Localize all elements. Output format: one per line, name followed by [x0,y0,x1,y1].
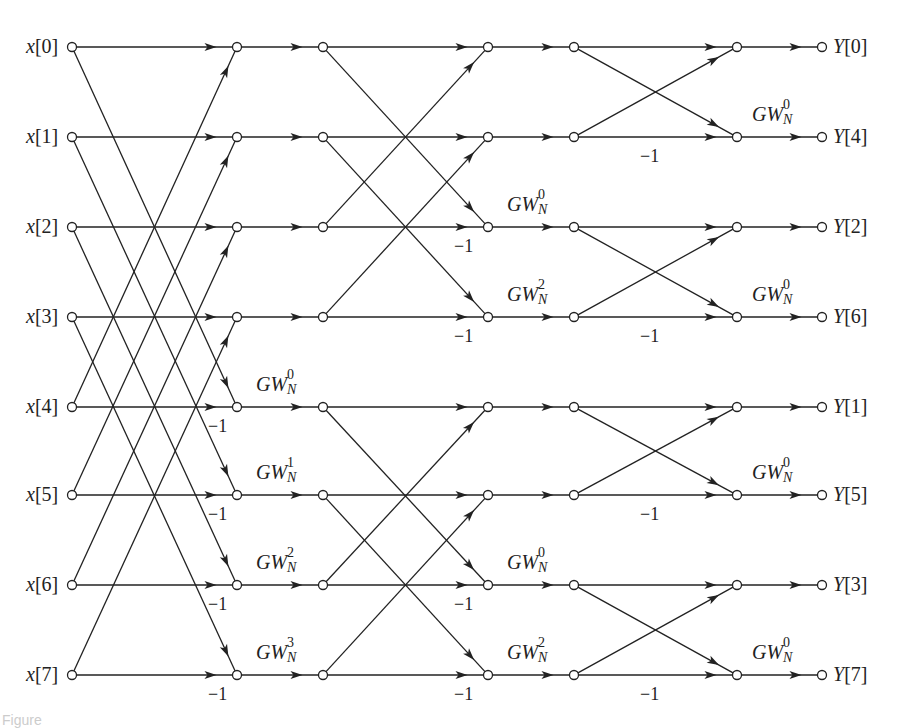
node-c5-r6 [733,581,742,590]
neg-stage2-row2: −1 [454,237,473,255]
node-c3-r3 [484,313,493,322]
twiddle-stage2-row2: GW0N [507,194,550,214]
neg-stage2-row7: −1 [454,685,473,703]
node-c6-r0 [818,43,827,52]
arrowhead-icon [707,656,721,669]
node-c2-r2 [319,223,328,232]
node-c6-r2 [818,223,827,232]
node-c3-r4 [484,403,493,412]
node-c6-r5 [818,491,827,500]
node-c4-r7 [570,671,579,680]
node-c4-r0 [570,43,579,52]
twiddle-stage2-row3: GW2N [507,284,550,304]
node-c0-r5 [68,491,77,500]
node-c3-r0 [484,43,493,52]
neg-stage1-row4: −1 [208,417,227,435]
node-c4-r5 [570,491,579,500]
output-label-1: Y[4] [833,126,867,146]
twiddle-stage1-row7: GW3N [256,642,299,662]
arrowhead-icon [707,591,721,604]
arrowhead-icon [220,376,232,390]
neg-stage3-row5: −1 [640,505,659,523]
node-c2-r3 [319,313,328,322]
node-c4-r6 [570,581,579,590]
twiddle-stage3-row3: GW0N [752,284,795,304]
arrowhead-icon [220,64,232,78]
arrowhead-icon [220,554,232,568]
output-label-7: Y[7] [833,664,867,684]
node-c2-r6 [319,581,328,590]
input-label-3: x[3] [26,306,58,326]
neg-stage3-row7: −1 [640,685,659,703]
input-label-2: x[2] [26,216,58,236]
node-c1-r1 [233,133,242,142]
neg-stage1-row5: −1 [208,505,227,523]
input-label-7: x[7] [26,664,58,684]
input-label-1: x[1] [26,126,58,146]
node-c3-r6 [484,581,493,590]
arrowhead-icon [220,334,232,348]
node-c5-r4 [733,403,742,412]
twiddle-stage2-row7: GW2N [507,642,550,662]
node-c1-r3 [233,313,242,322]
arrowhead-icon [220,644,232,658]
neg-stage1-row7: −1 [208,685,227,703]
output-label-0: Y[0] [833,36,867,56]
output-label-4: Y[1] [833,396,867,416]
node-c0-r6 [68,581,77,590]
node-c3-r2 [484,223,493,232]
node-c1-r7 [233,671,242,680]
arrowhead-icon [707,413,721,426]
node-c1-r2 [233,223,242,232]
node-c0-r3 [68,313,77,322]
node-c4-r1 [570,133,579,142]
node-c2-r0 [319,43,328,52]
neg-stage1-row6: −1 [208,595,227,613]
node-c0-r2 [68,223,77,232]
arrowhead-icon [707,118,721,131]
node-c0-r1 [68,133,77,142]
node-c6-r7 [818,671,827,680]
node-c6-r3 [818,313,827,322]
node-c3-r1 [484,133,493,142]
arrowhead-icon [220,154,232,168]
neg-stage2-row6: −1 [454,595,473,613]
node-c3-r7 [484,671,493,680]
twiddle-stage1-row6: GW2N [256,552,299,572]
input-label-5: x[5] [26,484,58,504]
node-c2-r7 [319,671,328,680]
node-c5-r1 [733,133,742,142]
node-c5-r0 [733,43,742,52]
node-c5-r2 [733,223,742,232]
node-c4-r4 [570,403,579,412]
input-label-0: x[0] [26,36,58,56]
input-label-6: x[6] [26,574,58,594]
arrowhead-icon [220,244,232,258]
node-c5-r7 [733,671,742,680]
twiddle-stage1-row4: GW0N [256,374,299,394]
output-label-5: Y[5] [833,484,867,504]
twiddle-stage3-row1: GW0N [752,104,795,124]
neg-stage3-row1: −1 [640,147,659,165]
figure-caption-fragment: Figure [2,712,42,728]
neg-stage2-row3: −1 [454,327,473,345]
node-c2-r1 [319,133,328,142]
node-c4-r2 [570,223,579,232]
twiddle-stage3-row7: GW0N [752,642,795,662]
output-label-6: Y[3] [833,574,867,594]
twiddle-stage3-row5: GW0N [752,462,795,482]
node-c2-r4 [319,403,328,412]
arrowhead-icon [707,476,721,489]
node-c2-r5 [319,491,328,500]
twiddle-stage1-row5: GW1N [256,462,299,482]
node-c1-r0 [233,43,242,52]
node-c6-r1 [818,133,827,142]
neg-stage3-row3: −1 [640,327,659,345]
node-c4-r3 [570,313,579,322]
node-c6-r4 [818,403,827,412]
node-c0-r0 [68,43,77,52]
output-label-2: Y[2] [833,216,867,236]
twiddle-stage2-row6: GW0N [507,552,550,572]
arrowhead-icon [707,53,721,66]
node-c5-r5 [733,491,742,500]
